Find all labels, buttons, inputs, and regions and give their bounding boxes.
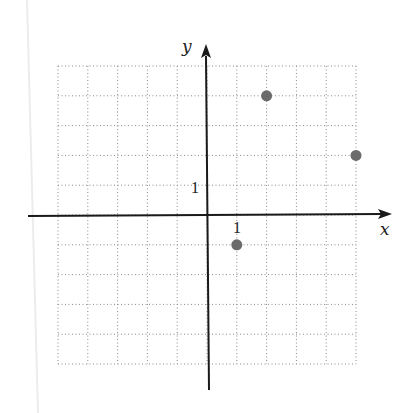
page-edge (27, 0, 38, 413)
y-axis-arrow-icon (201, 44, 211, 58)
y-axis-label: y (181, 36, 192, 56)
data-points (231, 90, 361, 250)
x-tick-label-1: 1 (233, 219, 241, 236)
data-point (261, 90, 272, 101)
x-axis (28, 214, 382, 216)
data-point (231, 239, 242, 250)
x-axis-label: x (380, 219, 390, 239)
y-tick-label-1: 1 (191, 179, 199, 196)
coordinate-plane: x y 1 1 (0, 0, 414, 413)
data-point (351, 150, 362, 161)
